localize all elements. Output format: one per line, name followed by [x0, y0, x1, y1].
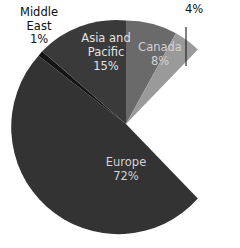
slice-label-europe-line1: Europe [86, 155, 166, 169]
slice-label-canada-line1: Canada [132, 40, 188, 54]
slice-value-canada: 8% [132, 54, 188, 68]
slice-label-europe: Europe 72% [86, 155, 166, 183]
slice-label-canada: Canada 8% [132, 40, 188, 68]
slice-label-middle-east: Middle East 1% [8, 6, 70, 47]
pie-chart-figure: Middle East 1% and Caribbean 4% Asia and… [0, 0, 240, 248]
slice-value-middle-east: 1% [8, 33, 70, 47]
slice-label-middle-east-line2: East [8, 20, 70, 34]
slice-label-middle-east-line1: Middle [8, 6, 70, 20]
slice-label-latin-america-caribbean: and Caribbean 4% [150, 0, 238, 16]
slice-value-latin-america: 4% [150, 3, 238, 17]
slice-value-europe: 72% [86, 169, 166, 183]
